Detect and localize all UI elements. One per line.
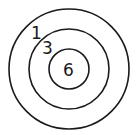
target-diagram: 1 3 6 [0, 0, 137, 135]
middle-ring-score: 3 [42, 38, 53, 58]
inner-ring-score: 6 [63, 60, 74, 80]
outer-ring-score: 1 [31, 23, 42, 43]
